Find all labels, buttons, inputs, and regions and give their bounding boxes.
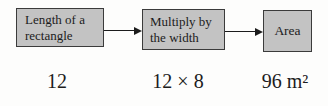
box-label-line1: Multiply by <box>150 14 224 30</box>
function-machine-flowchart: Length of a rectangle Multiply by the wi… <box>0 0 328 106</box>
flowchart-box-area: Area <box>263 10 312 52</box>
value-area: 96 m² <box>255 69 315 93</box>
arrow-shaft <box>225 31 257 33</box>
value-length: 12 <box>13 69 101 93</box>
value-expression: 12 × 8 <box>138 69 218 93</box>
arrow-right-icon <box>225 27 263 36</box>
box-label-line2: the width <box>150 30 224 46</box>
box-label-line1: Area <box>274 23 300 39</box>
arrow-head <box>255 28 263 36</box>
arrow-head <box>134 27 142 35</box>
arrow-right-icon <box>104 26 142 35</box>
flowchart-box-length: Length of a rectangle <box>16 8 104 47</box>
box-label-line1: Length of a <box>25 12 103 28</box>
arrow-shaft <box>104 30 136 32</box>
flowchart-box-multiply: Multiply by the width <box>142 9 225 50</box>
box-label-line2: rectangle <box>25 28 103 44</box>
